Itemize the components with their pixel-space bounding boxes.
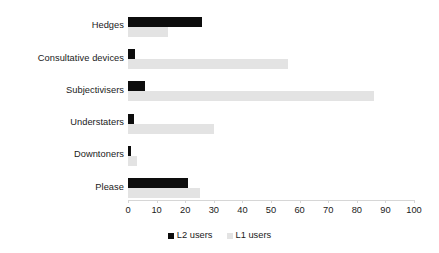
x-tick-0 <box>128 200 129 203</box>
x-tick-80 <box>357 200 358 203</box>
legend-swatch-l2-icon <box>168 233 174 239</box>
bar-l1-users-please <box>128 188 200 198</box>
plot-area: Hedges Consultative devices Subjectivise… <box>0 0 439 253</box>
x-tick-20 <box>185 200 186 203</box>
x-tick-label-100: 100 <box>399 205 429 216</box>
legend-item-l1-users: L1 users <box>227 230 272 241</box>
x-tick-label-50: 50 <box>256 205 286 216</box>
x-tick-label-80: 80 <box>342 205 372 216</box>
category-label-consultative-devices: Consultative devices <box>4 53 124 63</box>
legend-label-l1: L1 users <box>236 230 272 241</box>
legend-item-l2-users: L2 users <box>168 230 213 241</box>
x-tick-100 <box>414 200 415 203</box>
x-tick-label-70: 70 <box>313 205 343 216</box>
category-label-please: Please <box>4 182 124 192</box>
x-tick-50 <box>271 200 272 203</box>
x-tick-label-40: 40 <box>227 205 257 216</box>
bar-l1-users-downtoners <box>128 156 137 166</box>
x-tick-label-90: 90 <box>370 205 400 216</box>
legend-swatch-l1-icon <box>227 233 233 239</box>
x-tick-70 <box>328 200 329 203</box>
x-tick-label-20: 20 <box>170 205 200 216</box>
horizontal-bar-chart: Hedges Consultative devices Subjectivise… <box>0 0 439 253</box>
bar-l1-users-understaters <box>128 124 214 134</box>
bar-l2-users-subjectivisers <box>128 81 145 91</box>
chart-legend: L2 users L1 users <box>0 230 439 241</box>
x-tick-30 <box>214 200 215 203</box>
x-tick-40 <box>242 200 243 203</box>
bar-l2-users-downtoners <box>128 146 131 156</box>
x-tick-label-0: 0 <box>113 205 143 216</box>
bar-l1-users-consultative-devices <box>128 59 288 69</box>
bar-l2-users-consultative-devices <box>128 49 135 59</box>
x-tick-10 <box>157 200 158 203</box>
bar-l2-users-please <box>128 178 188 188</box>
category-label-hedges: Hedges <box>4 20 124 30</box>
x-tick-label-60: 60 <box>285 205 315 216</box>
legend-label-l2: L2 users <box>177 230 213 241</box>
category-label-understaters: Understaters <box>4 117 124 127</box>
bar-l2-users-understaters <box>128 114 134 124</box>
bar-l1-users-hedges <box>128 27 168 37</box>
x-tick-label-10: 10 <box>142 205 172 216</box>
bar-l1-users-subjectivisers <box>128 91 374 101</box>
x-tick-90 <box>385 200 386 203</box>
category-label-downtoners: Downtoners <box>4 149 124 159</box>
bar-l2-users-hedges <box>128 17 202 27</box>
x-tick-label-30: 30 <box>199 205 229 216</box>
category-label-subjectivisers: Subjectivisers <box>4 85 124 95</box>
x-tick-60 <box>300 200 301 203</box>
